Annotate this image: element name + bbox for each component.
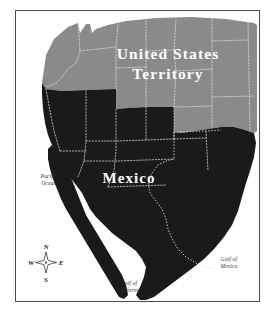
water-label-gulf-of-california: Gulf of California bbox=[117, 280, 141, 293]
map-canvas: United States Territory Mexico Pacific O… bbox=[16, 11, 259, 301]
pacific-ocean-line2: Ocean bbox=[42, 180, 57, 186]
compass-label-west: W bbox=[28, 259, 35, 267]
water-label-gulf-of-mexico: Gulf of Mexico bbox=[220, 256, 239, 269]
gulf-of-california-line1: Gulf of bbox=[121, 280, 139, 286]
compass-label-north: N bbox=[42, 243, 49, 251]
compass-label-south: S bbox=[44, 276, 48, 284]
gulf-of-california-line2: California bbox=[117, 287, 141, 293]
label-united-states-territory-line2: Territory bbox=[132, 65, 203, 82]
compass-center-dot bbox=[45, 262, 47, 264]
label-united-states-territory-line1: United States bbox=[117, 45, 220, 62]
gulf-of-mexico-line2: Mexico bbox=[220, 263, 238, 269]
compass-rose: N S W E bbox=[28, 243, 64, 284]
gulf-of-mexico-line1: Gulf of bbox=[221, 256, 239, 262]
water-label-pacific-ocean: Pacific Ocean bbox=[40, 173, 58, 186]
compass-label-east: E bbox=[58, 259, 64, 267]
pacific-ocean-line1: Pacific bbox=[40, 173, 58, 179]
map-figure: United States Territory Mexico Pacific O… bbox=[15, 10, 260, 302]
label-mexico: Mexico bbox=[102, 170, 155, 186]
